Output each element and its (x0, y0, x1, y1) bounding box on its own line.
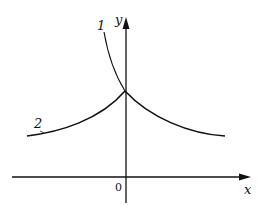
origin-label: 0 (115, 181, 122, 194)
curve-2-leader (40, 131, 44, 133)
y-axis-arrow-icon (123, 17, 130, 29)
y-axis (123, 17, 130, 203)
y-axis-label: y (114, 12, 123, 27)
curve-1 (104, 32, 125, 91)
x-axis-label: x (244, 182, 252, 197)
x-axis (12, 174, 251, 181)
diagram-canvas: 1 2 y x 0 (0, 0, 264, 210)
x-axis-arrow-icon (239, 174, 251, 181)
curve-1-label: 1 (97, 18, 105, 33)
curve-2-label: 2 (33, 116, 42, 131)
